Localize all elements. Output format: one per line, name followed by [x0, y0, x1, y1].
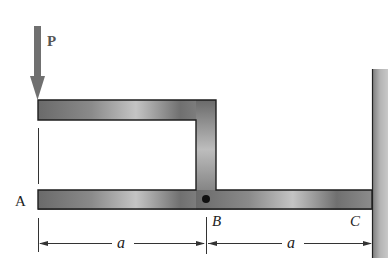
- point-A-label: A: [15, 193, 26, 209]
- pin-B-icon: [202, 195, 210, 203]
- dimension-AB-label: a: [117, 234, 125, 251]
- load-label: P: [47, 33, 56, 49]
- dimension-BC-label: a: [287, 234, 295, 251]
- fixed-wall: [372, 69, 388, 258]
- frame-member: [38, 100, 372, 210]
- point-B-label: B: [212, 213, 221, 229]
- point-C-label: C: [350, 213, 361, 229]
- load-arrow-icon: [30, 26, 45, 100]
- beam-diagram: P A B C a a: [0, 0, 388, 269]
